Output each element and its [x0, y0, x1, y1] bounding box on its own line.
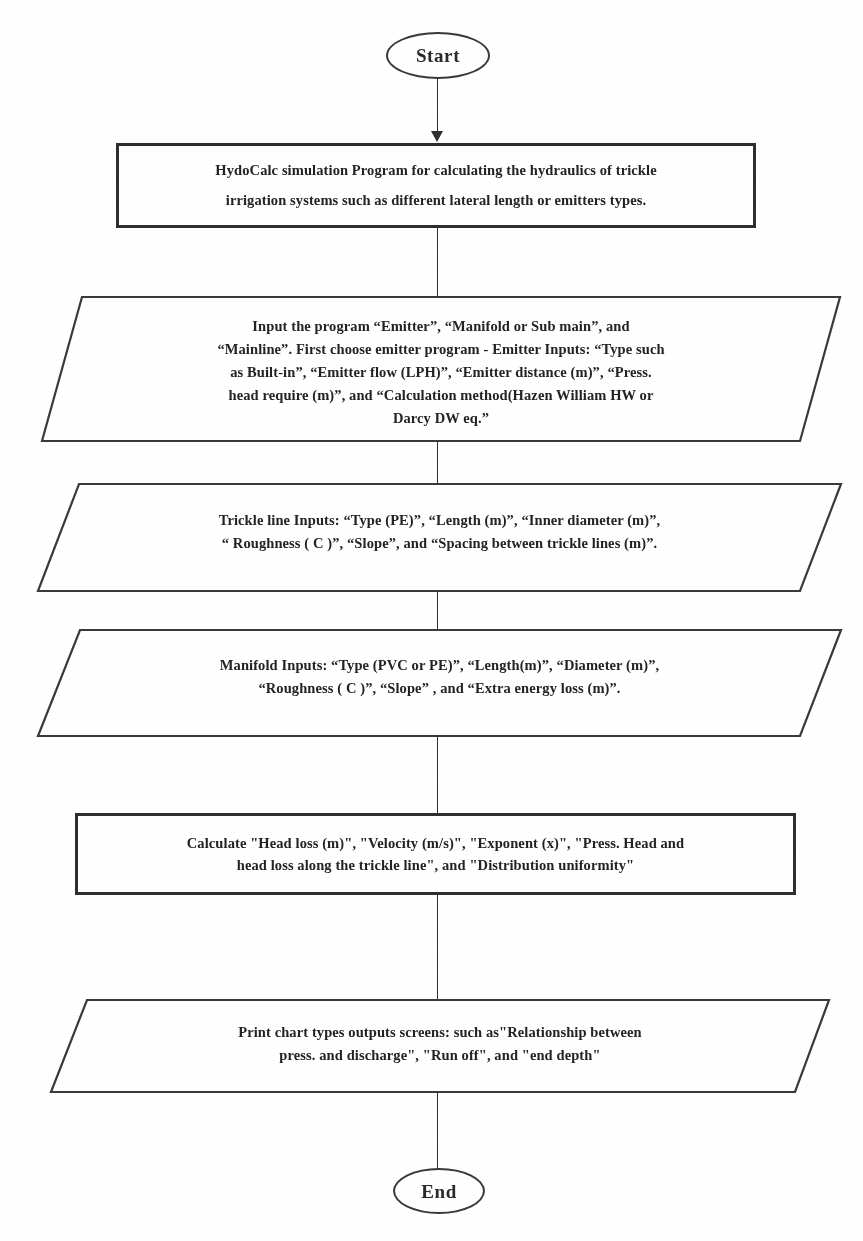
node-intro-process[interactable]: HydoCalc simulation Program for calculat…: [116, 143, 756, 228]
node-calculate-process-text: Calculate "Head loss (m)", "Velocity (m/…: [187, 832, 684, 877]
emitter-line-4: head require (m)”, and “Calculation meth…: [229, 387, 654, 403]
trickle-line-2: “ Roughness ( C )”, “Slope”, and “Spacin…: [222, 535, 657, 551]
emitter-line-1: Input the program “Emitter”, “Manifold o…: [252, 318, 629, 334]
print-line-1: Print chart types outputs screens: such …: [238, 1024, 642, 1040]
calculate-line-1: Calculate "Head loss (m)", "Velocity (m/…: [187, 835, 684, 851]
connector-manifold-to-calculate: [437, 735, 438, 815]
arrowhead-intro: [431, 131, 443, 142]
node-emitter-input-text: Input the program “Emitter”, “Manifold o…: [36, 315, 846, 430]
print-line-2: press. and discharge", "Run off", and "e…: [279, 1047, 600, 1063]
node-print-output-text: Print chart types outputs screens: such …: [45, 1021, 835, 1067]
node-intro-process-text: HydoCalc simulation Program for calculat…: [215, 156, 656, 215]
node-start-label: Start: [416, 46, 460, 65]
node-trickle-line-input-text: Trickle line Inputs: “Type (PE)”, “Lengt…: [32, 509, 847, 555]
trickle-line-1: Trickle line Inputs: “Type (PE)”, “Lengt…: [219, 512, 661, 528]
node-calculate-process[interactable]: Calculate "Head loss (m)", "Velocity (m/…: [75, 813, 796, 895]
node-manifold-input[interactable]: Manifold Inputs: “Type (PVC or PE)”, “Le…: [32, 627, 847, 739]
intro-line-1: HydoCalc simulation Program for calculat…: [215, 162, 656, 178]
node-end[interactable]: End: [393, 1168, 485, 1214]
connector-intro-to-emitter: [437, 228, 438, 298]
node-emitter-input[interactable]: Input the program “Emitter”, “Manifold o…: [36, 294, 846, 444]
manifold-line-2: “Roughness ( C )”, “Slope” , and “Extra …: [258, 680, 620, 696]
connector-emitter-to-trickle: [437, 441, 438, 486]
calculate-line-2: head loss along the trickle line", and "…: [237, 857, 635, 873]
manifold-line-1: Manifold Inputs: “Type (PVC or PE)”, “Le…: [220, 657, 659, 673]
node-manifold-input-text: Manifold Inputs: “Type (PVC or PE)”, “Le…: [32, 654, 847, 700]
intro-line-2: irrigation systems such as different lat…: [226, 192, 646, 208]
node-trickle-line-input[interactable]: Trickle line Inputs: “Type (PE)”, “Lengt…: [32, 481, 847, 594]
emitter-line-2: “Mainline”. First choose emitter program…: [217, 341, 664, 357]
connector-print-to-end: [437, 1092, 438, 1170]
connector-calculate-to-print: [437, 895, 438, 1003]
node-start[interactable]: Start: [386, 32, 490, 79]
node-print-output[interactable]: Print chart types outputs screens: such …: [45, 997, 835, 1095]
node-end-label: End: [421, 1182, 457, 1201]
emitter-line-3: as Built-in”, “Emitter flow (LPH)”, “Emi…: [230, 364, 652, 380]
connector-start-to-intro: [437, 79, 438, 132]
flowchart-canvas: Start HydoCalc simulation Program for ca…: [0, 0, 863, 1241]
emitter-line-5: Darcy DW eq.”: [393, 410, 489, 426]
